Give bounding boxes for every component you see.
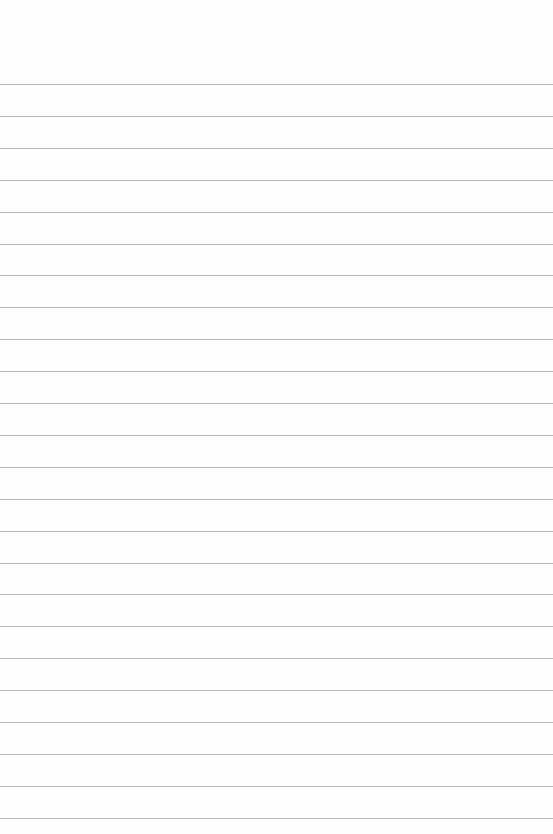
ruled-line — [0, 148, 553, 149]
ruled-line — [0, 531, 553, 532]
lined-paper-sheet — [0, 0, 553, 834]
ruled-line — [0, 116, 553, 117]
ruled-line — [0, 690, 553, 691]
ruled-line — [0, 754, 553, 755]
ruled-line — [0, 339, 553, 340]
ruled-line — [0, 563, 553, 564]
ruled-line — [0, 435, 553, 436]
ruled-line — [0, 722, 553, 723]
ruled-line — [0, 275, 553, 276]
ruled-line — [0, 403, 553, 404]
ruled-line — [0, 818, 553, 819]
ruled-line — [0, 786, 553, 787]
ruled-line — [0, 180, 553, 181]
ruled-line — [0, 244, 553, 245]
ruled-line — [0, 307, 553, 308]
ruled-line — [0, 371, 553, 372]
ruled-line — [0, 626, 553, 627]
ruled-line — [0, 84, 553, 85]
ruled-line — [0, 594, 553, 595]
ruled-line — [0, 467, 553, 468]
ruled-line — [0, 658, 553, 659]
ruled-line — [0, 212, 553, 213]
ruled-line — [0, 499, 553, 500]
